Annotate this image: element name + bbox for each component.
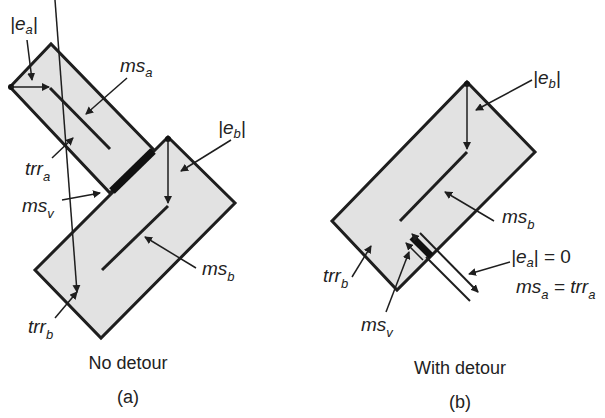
diagram-canvas: |ea| msa trra msv |eb| msb trrb No detou… bbox=[0, 0, 605, 418]
label-msa-a: msa bbox=[120, 55, 153, 80]
label-ea-zero: |ea| = 0 bbox=[511, 246, 571, 270]
label-trrb-a: trrb bbox=[28, 316, 53, 342]
label-eb-b: |eb| bbox=[533, 67, 561, 91]
label-trrb-b: trrb bbox=[323, 265, 348, 291]
label-msb-b: msb bbox=[502, 206, 535, 232]
label-ea-a: |ea| bbox=[10, 13, 38, 37]
caption-a: No detour bbox=[88, 353, 167, 373]
caption-b: With detour bbox=[414, 358, 506, 378]
detour-out-arrow bbox=[420, 233, 478, 292]
panel-a: |ea| msa trra msv |eb| msb trrb No detou… bbox=[8, 0, 246, 407]
label-trra-a: trra bbox=[25, 158, 50, 184]
panel-b: |eb| msb trrb msv |ea| = 0 msa = trra Wi… bbox=[323, 67, 595, 412]
detour-in-line bbox=[426, 257, 470, 301]
tag-a: (a) bbox=[117, 387, 139, 407]
label-msb-a: msb bbox=[202, 258, 235, 284]
label-eb-a: |eb| bbox=[218, 117, 246, 141]
label-msa-eq-trra: msa = trra bbox=[516, 276, 595, 302]
label-msv-b: msv bbox=[361, 314, 394, 340]
tag-b: (b) bbox=[449, 392, 471, 412]
label-msv-a: msv bbox=[22, 195, 55, 221]
